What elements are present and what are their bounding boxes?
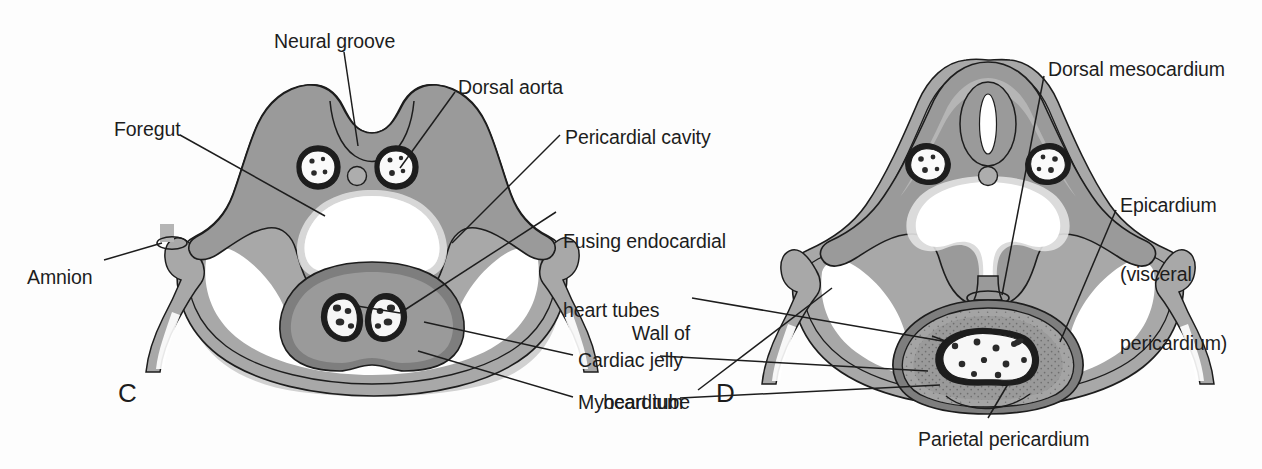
label-cardiac-jelly: Cardiac jelly <box>578 349 683 372</box>
label-line-3: pericardium) <box>1120 332 1260 355</box>
panel-letter-d: D <box>716 378 735 409</box>
figure-root: Neural groove Dorsal aorta Foregut Peric… <box>0 0 1262 469</box>
label-line-2: (visceral <box>1120 263 1260 286</box>
panel-d-notochord <box>979 167 998 186</box>
panel-c-dorsal-aorta-left <box>297 146 340 189</box>
label-foregut: Foregut <box>114 118 181 141</box>
panel-letter-c: C <box>118 378 137 409</box>
leader-amnion <box>104 243 162 260</box>
panel-c-notochord <box>348 167 367 186</box>
panel-d-dorsal-aorta-right <box>1026 144 1071 185</box>
label-myocardium: Myocardium <box>578 391 683 414</box>
panel-c-endocardial-heart-tube-left <box>322 294 363 342</box>
panel-c-endocardial-heart-tube-right <box>366 294 407 342</box>
panel-d-neural-tube-lumen <box>980 94 997 154</box>
label-line-1: Fusing endocardial <box>563 230 773 253</box>
label-line-1: Wall of <box>555 322 690 345</box>
panel-d-dorsal-aorta-left <box>906 144 951 185</box>
label-pericardial-cavity: Pericardial cavity <box>565 126 711 149</box>
panel-c-drawing <box>104 52 598 397</box>
label-neural-groove: Neural groove <box>274 30 395 53</box>
label-dorsal-mesocardium: Dorsal mesocardium <box>1048 58 1225 81</box>
label-parietal-pericardium: Parietal pericardium <box>918 428 1089 451</box>
label-line-1: Epicardium <box>1120 194 1260 217</box>
label-epicardium-visceral-pericardium: Epicardium (visceral pericardium) <box>1120 148 1260 401</box>
panel-d-dorsal-mesocardium <box>974 276 1002 300</box>
label-amnion: Amnion <box>27 266 93 289</box>
label-dorsal-aorta: Dorsal aorta <box>458 76 563 99</box>
panel-c-amnion-marker-block <box>160 224 174 242</box>
